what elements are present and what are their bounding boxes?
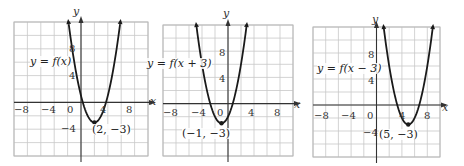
x-tick-4: 4 [100,105,106,115]
x-tick-8: 8 [274,108,280,118]
vertex-label: (2, −3) [92,124,131,135]
x-axis-label: x [442,102,448,113]
y-tick-4: 4 [368,76,374,86]
y-tick-neg4: −4 [363,128,378,138]
vertex-label: (5, −3) [379,129,418,140]
x-tick-neg4: −4 [191,108,206,118]
x-axis-label: x [294,99,300,110]
x-tick-8: 8 [126,105,132,115]
function-label: y = f(x − 3) [317,63,382,74]
y-tick-8: 8 [69,44,75,54]
graph-panel-f-x-minus-3: y x −8 −4 0 4 8 8 4 −4 y = f(x − 3) (5, … [310,0,464,166]
x-tick-0: 0 [67,105,73,115]
x-tick-neg4: −4 [341,111,356,121]
x-tick-0: 0 [367,111,373,121]
y-axis-label: y [223,8,229,19]
plot-area [155,0,310,166]
y-axis-label: y [372,14,378,25]
vertex-label: (−1, −3) [182,128,230,139]
x-tick-8: 8 [424,111,430,121]
function-label: y = f(x) [30,56,71,67]
x-tick-neg8: −8 [314,111,329,121]
y-tick-neg4: −4 [61,124,76,134]
y-tick-8: 8 [368,50,374,60]
plot-area [310,0,464,166]
graph-panel-f-x-plus-3: y x −8 −4 0 4 8 8 4 y = f(x + 3) (−1, −3… [155,0,310,166]
x-tick-neg8: −8 [14,105,29,115]
x-tick-4: 4 [399,111,405,121]
function-label: y = f(x + 3) [147,58,212,69]
x-tick-neg4: −4 [41,105,56,115]
x-tick-4: 4 [248,108,254,118]
x-tick-0: 0 [217,108,223,118]
plot-area [0,0,155,166]
x-tick-neg8: −8 [163,108,178,118]
y-tick-8: 8 [219,48,225,58]
graph-panel-f-x: y x −8 −4 0 4 8 8 4 −4 y = f(x) (2, −3) [0,0,155,166]
y-axis-label: y [73,6,79,17]
y-tick-4: 4 [219,74,225,84]
y-tick-4: 4 [69,71,75,81]
